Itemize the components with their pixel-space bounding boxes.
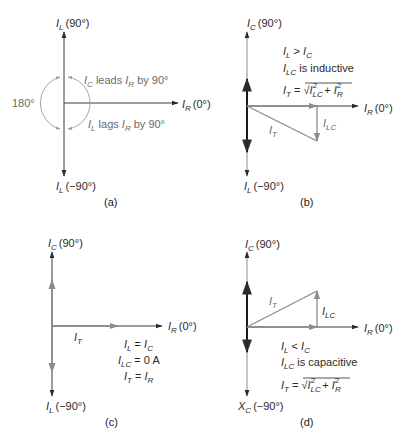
caption-b: (b): [300, 196, 313, 208]
label-180: 180°: [12, 97, 35, 109]
arc-180-left: [40, 77, 60, 129]
arc-lags-90: [68, 103, 90, 129]
condition-1: IL = IC: [124, 338, 153, 353]
panel-d: IC(90°) IR(0°) XC(−90°) IT ILC IL < IC I…: [237, 238, 393, 428]
it-vector: [247, 291, 317, 327]
panel-c: IC(90°) IR(0°) IL(−90°) IT IL = IC ILC =…: [46, 237, 197, 428]
caption-c: (c): [105, 416, 118, 428]
condition-2: ILC = 0 A: [118, 354, 160, 369]
label-top: IC(90°): [245, 238, 280, 253]
label-it: IT: [269, 124, 278, 139]
label-bottom: IL(−90°): [244, 180, 284, 195]
caption-a: (a): [104, 196, 117, 208]
condition-2: ILC is inductive: [283, 62, 354, 77]
formula: IT = √ILC2 + IR2: [281, 376, 341, 394]
label-it: IT: [269, 295, 278, 310]
phasor-diagram-figure: IL(90°) IR(0°) IL(−90°) 180° IC leads IR…: [0, 0, 404, 437]
annotation-leads: IC leads IR by 90°: [84, 74, 168, 89]
label-ilc: ILC: [322, 305, 336, 320]
formula: IT = √ILC2 + IR2: [283, 81, 343, 99]
condition-3: IT = IR: [124, 370, 154, 385]
label-right: IR(0°): [364, 102, 393, 117]
condition-1: IL < IC: [281, 340, 310, 355]
label-top: IC(90°): [247, 17, 282, 32]
label-it: IT: [74, 331, 83, 346]
label-ilc: ILC: [323, 117, 337, 132]
panel-b: IC(90°) IR(0°) IL(−90°) IL > IC ILC is i…: [244, 17, 393, 208]
condition-1: IL > IC: [283, 45, 312, 60]
panel-a: IL(90°) IR(0°) IL(−90°) 180° IC leads IR…: [12, 17, 211, 208]
label-top: IC(90°): [48, 237, 83, 252]
it-vector: [247, 106, 317, 141]
condition-2: ILC is capacitive: [281, 356, 357, 371]
label-right: IR(0°): [168, 320, 197, 335]
label-right: IR(0°): [364, 322, 393, 337]
label-bottom: IL(−90°): [46, 400, 86, 415]
label-top: IL(90°): [56, 17, 89, 32]
caption-d: (d): [300, 416, 313, 428]
label-bottom: IL(−90°): [56, 180, 96, 195]
annotation-lags: IL lags IR by 90°: [88, 118, 165, 133]
label-right: IR(0°): [182, 98, 211, 113]
label-bottom: XC(−90°): [237, 400, 284, 415]
